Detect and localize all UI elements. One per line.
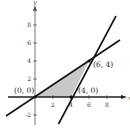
vertex-label-4-0: (4, 0) — [78, 86, 98, 95]
constraint-line-1 — [6, 40, 120, 116]
x-tick-label-2: 2 — [51, 101, 55, 108]
y-axis-label: y — [32, 0, 37, 6]
x-axis-label: x — [128, 94, 130, 101]
x-tick-label-6: 6 — [87, 101, 91, 108]
vertex-label-6-4: (6, 4) — [93, 60, 113, 69]
vertex-point-6-4 — [87, 59, 90, 62]
y-tick-label-6: 6 — [27, 39, 31, 46]
x-tick-label-8: 8 — [105, 101, 109, 108]
vertex-point-0-0 — [33, 95, 36, 98]
y-axis-arrow-icon — [33, 5, 37, 11]
vertex-label-0-0: (0, 0) — [14, 86, 34, 95]
x-axis-arrow-icon — [121, 95, 127, 99]
y-tick-label-2: 2 — [27, 75, 31, 82]
y-tick-label-8: 8 — [27, 21, 31, 28]
y-tick-label-neg2: -2 — [25, 111, 31, 118]
coordinate-plane: 2 4 6 8 8 6 4 2 -2 y x (0, 0) (4, 0) (6,… — [0, 0, 130, 139]
vertex-point-4-0 — [69, 95, 72, 98]
y-tick-label-4: 4 — [27, 57, 31, 64]
